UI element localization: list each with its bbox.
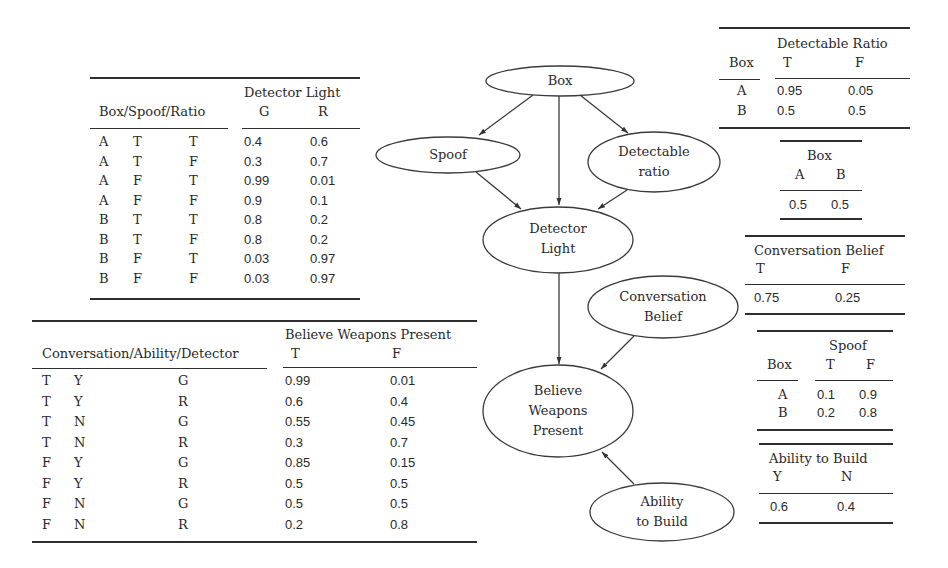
group-header-rule (283, 367, 477, 368)
column-header-r: R (318, 104, 328, 120)
node-detectable-ratio-line2: ratio (594, 162, 714, 182)
node-detector-light-label: Detector Light (498, 219, 618, 259)
cell-ability: N (74, 496, 85, 512)
column-header-f: F (392, 346, 401, 362)
cell-f: 0.4 (390, 394, 408, 410)
cell-detector: R (178, 435, 188, 451)
edge-box-detectable-ratio (580, 95, 628, 133)
cell-detector: G (178, 414, 188, 430)
node-spoof-text: Spoof (429, 147, 467, 162)
cell-t: 0.5 (285, 476, 303, 492)
cell-r: 0.97 (310, 271, 335, 287)
table-top-rule (32, 320, 477, 322)
cell-t: 0.85 (285, 455, 310, 471)
column-header-a: A (795, 167, 804, 183)
node-believe-weapons-label: Believe Weapons Present (498, 381, 618, 441)
parent-header-rule (757, 380, 798, 381)
cell-f: 0.5 (390, 496, 408, 512)
cell-ratio: T (189, 173, 198, 189)
cell-ability: Y (74, 394, 83, 410)
edge-spoof-detector-light (476, 172, 521, 209)
cell-t: 0.55 (285, 414, 310, 430)
parent-header-rule (32, 368, 267, 369)
cell-spoof: T (133, 232, 142, 248)
edge-box-spoof (479, 95, 533, 135)
node-conversation-belief-label: Conversation Belief (598, 287, 728, 327)
node-believe-weapons-line3: Present (498, 421, 618, 441)
cell-ability: N (74, 517, 85, 533)
cell-ability: N (74, 435, 85, 451)
cell-box: B (99, 212, 109, 228)
group-header: Box (807, 148, 832, 164)
cell-box: B (99, 271, 109, 287)
cell-box: A (99, 154, 108, 170)
cell-spoof: T (133, 134, 142, 150)
cell-spoof: F (133, 271, 142, 287)
row-a-f: 0.9 (859, 387, 877, 403)
cell-ratio: F (189, 271, 198, 287)
cell-spoof: T (133, 154, 142, 170)
column-header-f: F (855, 55, 864, 71)
cell-g: 0.03 (244, 271, 269, 287)
row-b-f: 0.5 (848, 103, 866, 119)
group-header-rule (815, 380, 893, 381)
cell-spoof: F (133, 173, 142, 189)
cell-g: 0.4 (244, 134, 262, 150)
table-top-rule (780, 140, 862, 142)
node-believe-weapons-line2: Weapons (498, 401, 618, 421)
header-rule (780, 190, 862, 191)
value-f: 0.25 (835, 290, 860, 306)
parent-header: Box/Spoof/Ratio (99, 104, 205, 120)
cell-box: B (99, 232, 109, 248)
table-top-rule (745, 235, 905, 237)
table-top-rule (759, 443, 893, 445)
node-spoof-label: Spoof (388, 145, 508, 165)
node-detector-light-line2: Light (498, 239, 618, 259)
value-a: 0.5 (789, 197, 807, 213)
cell-box: A (99, 193, 108, 209)
cell-ratio: T (189, 134, 198, 150)
column-header-y: Y (773, 469, 782, 485)
group-header-rule (242, 128, 360, 129)
cell-r: 0.6 (310, 134, 328, 150)
cell-conversation: F (42, 455, 51, 471)
cell-f: 0.7 (390, 435, 408, 451)
group-header: Detector Light (244, 85, 340, 101)
cell-g: 0.8 (244, 212, 262, 228)
table-bottom-rule (719, 127, 910, 129)
cell-g: 0.99 (244, 173, 269, 189)
group-header: Detectable Ratio (777, 36, 888, 52)
cell-r: 0.2 (310, 212, 328, 228)
cell-ratio: F (189, 232, 198, 248)
value-y: 0.6 (770, 499, 788, 515)
cell-detector: R (178, 476, 188, 492)
group-header: Believe Weapons Present (285, 327, 451, 343)
cell-conversation: F (42, 517, 51, 533)
table-bottom-rule (759, 522, 893, 524)
column-header-n: N (841, 469, 852, 485)
row-b-box: B (778, 405, 788, 421)
parent-header-rule (719, 79, 760, 80)
column-header-t: T (783, 55, 792, 71)
cell-f: 0.01 (390, 373, 415, 389)
cell-t: 0.6 (285, 394, 303, 410)
cell-spoof: F (133, 251, 142, 267)
cell-g: 0.3 (244, 154, 262, 170)
cell-f: 0.8 (390, 517, 408, 533)
node-ability-to-build-line1: Ability (602, 492, 722, 512)
table-bottom-rule (780, 218, 862, 220)
parent-header: Box (767, 357, 792, 373)
cell-box: A (99, 134, 108, 150)
cell-ability: Y (74, 455, 83, 471)
row-b-t: 0.2 (817, 405, 835, 421)
edge-ability-believe-weapons (602, 452, 634, 484)
header-rule (745, 284, 905, 285)
table-top-rule (719, 27, 910, 29)
row-b-t: 0.5 (777, 103, 795, 119)
cell-r: 0.1 (310, 193, 328, 209)
cell-t: 0.5 (285, 496, 303, 512)
row-a-box: A (737, 83, 746, 99)
table-top-rule (757, 330, 893, 332)
cell-r: 0.7 (310, 154, 328, 170)
cell-f: 0.45 (390, 414, 415, 430)
